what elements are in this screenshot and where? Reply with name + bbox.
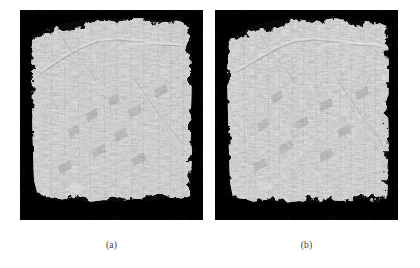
micrograph-panel-a <box>20 10 203 220</box>
figure-root: (a) (b) <box>0 0 420 268</box>
panel-caption-a: (a) <box>20 238 203 252</box>
micrograph-image-b <box>215 10 398 220</box>
micrograph-panel-b <box>215 10 398 220</box>
micrograph-image-a <box>20 10 203 220</box>
panel-caption-b: (b) <box>215 238 398 252</box>
